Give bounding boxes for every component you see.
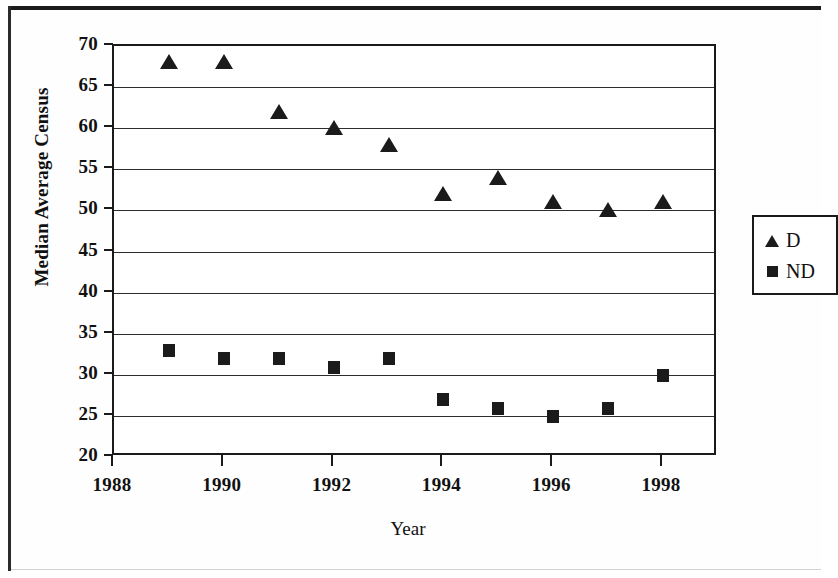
legend-item-d: D: [762, 225, 836, 256]
x-axis-tick: [440, 455, 442, 466]
data-point-nd: [383, 352, 395, 365]
chart-legend: D ND: [752, 215, 838, 295]
data-point-d: [270, 104, 288, 119]
square-icon: [762, 266, 782, 277]
data-point-d: [489, 170, 507, 185]
data-point-d: [215, 54, 233, 69]
x-axis-tick-label: 1992: [287, 474, 377, 496]
data-point-nd: [657, 369, 669, 382]
y-axis-tick-label: 30: [52, 363, 98, 382]
data-point-nd: [163, 344, 175, 357]
data-point-d: [654, 194, 672, 209]
data-point-d: [380, 137, 398, 152]
x-axis-tick: [660, 455, 662, 466]
gridline: [114, 375, 714, 376]
y-axis-tick-label: 45: [52, 240, 98, 259]
gridline: [114, 210, 714, 211]
data-point-d: [160, 54, 178, 69]
y-axis-tick-label: 70: [52, 34, 98, 53]
x-axis-tick: [221, 455, 223, 466]
triangle-icon: [762, 235, 782, 247]
x-axis-title: Year: [318, 518, 498, 540]
y-axis-title: Median Average Census: [31, 67, 53, 307]
legend-label-nd: ND: [786, 260, 815, 283]
x-axis-tick-label: 1988: [67, 474, 157, 496]
y-axis-tick-label: 35: [52, 322, 98, 341]
data-point-nd: [273, 352, 285, 365]
data-point-nd: [328, 361, 340, 374]
gridline: [114, 87, 714, 88]
y-axis-tick-label: 65: [52, 75, 98, 94]
x-axis-tick: [111, 455, 113, 466]
y-axis-tick-label: 60: [52, 116, 98, 135]
y-axis-tick-label: 50: [52, 198, 98, 217]
x-axis-tick-label: 1994: [396, 474, 486, 496]
y-axis-tick-label: 20: [52, 445, 98, 464]
y-axis-tick-label: 55: [52, 157, 98, 176]
legend-label-d: D: [786, 229, 800, 252]
gridline: [114, 293, 714, 294]
plot-area: [112, 44, 716, 455]
y-axis-tick-label: 25: [52, 404, 98, 423]
x-axis-tick-label: 1990: [177, 474, 267, 496]
data-point-d: [544, 194, 562, 209]
data-point-d: [434, 186, 452, 201]
y-axis-tick-label: 40: [52, 281, 98, 300]
gridline: [114, 169, 714, 170]
gridline: [114, 416, 714, 417]
data-point-nd: [602, 402, 614, 415]
data-point-d: [325, 120, 343, 135]
x-axis-tick-label: 1996: [506, 474, 596, 496]
data-point-nd: [492, 402, 504, 415]
gridline: [114, 334, 714, 335]
x-axis-tick-label: 1998: [616, 474, 706, 496]
gridline: [114, 252, 714, 253]
data-point-d: [599, 202, 617, 217]
x-axis-tick: [550, 455, 552, 466]
legend-item-nd: ND: [762, 256, 836, 287]
gridline: [114, 128, 714, 129]
x-axis-tick: [331, 455, 333, 466]
data-point-nd: [218, 352, 230, 365]
data-point-nd: [547, 410, 559, 423]
data-point-nd: [437, 393, 449, 406]
